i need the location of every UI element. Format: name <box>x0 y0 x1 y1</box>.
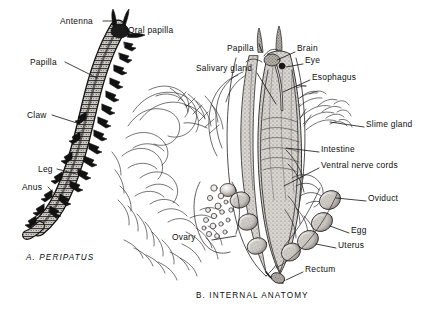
label-oviduct: Oviduct <box>368 194 398 202</box>
coiled-tubule-mass <box>112 86 223 280</box>
label-claw: Claw <box>27 111 47 119</box>
label-esophagus: Esophagus <box>312 73 356 81</box>
label-intestine: Intestine <box>321 145 355 153</box>
label-egg: Egg <box>351 226 367 234</box>
label-leg: Leg <box>38 165 53 173</box>
eye-shape <box>279 63 285 69</box>
label-anus: Anus <box>22 183 42 191</box>
label-rectum: Rectum <box>305 265 335 273</box>
label-oral-papilla: Oral papilla <box>128 26 173 34</box>
ovary-egg-cluster <box>194 182 269 257</box>
illustration-plate: Antenna Oral papilla Papilla Claw Leg An… <box>0 0 437 312</box>
label-antenna: Antenna <box>60 17 93 25</box>
label-ventral-nerve-cords: Ventral nerve cords <box>321 161 398 169</box>
anatomy-artwork <box>0 0 437 312</box>
label-uterus: Uterus <box>338 241 364 249</box>
label-brain: Brain <box>297 44 318 52</box>
peripatus-body <box>25 9 145 235</box>
caption-panel-a: A. PERIPATUS <box>26 253 94 262</box>
salivary-gland-ducts <box>184 72 248 156</box>
label-eye: Eye <box>305 56 320 64</box>
label-papilla-b: Papilla <box>227 44 254 52</box>
label-papilla-a: Papilla <box>30 58 57 66</box>
label-ovary: Ovary <box>172 233 196 241</box>
caption-panel-b: B. INTERNAL ANATOMY <box>196 291 309 300</box>
label-salivary-gland: Salivary gland <box>196 64 252 72</box>
label-slime-gland: Slime gland <box>366 120 413 128</box>
